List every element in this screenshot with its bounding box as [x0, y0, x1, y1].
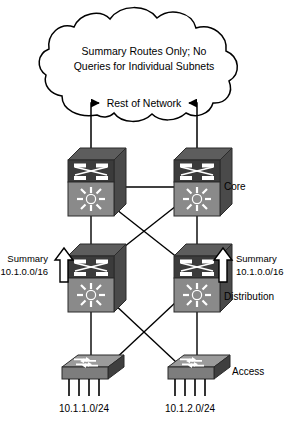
summary-right-line-2: 10.1.0.0/16	[236, 266, 284, 277]
subnet-right-label: 10.1.2.0/24	[165, 403, 215, 414]
rest-of-network-label: Rest of Network	[107, 97, 182, 109]
access-left-ports	[69, 379, 99, 396]
core-switch-left[interactable]	[68, 148, 126, 216]
summary-left-line-2: 10.1.0.0/16	[0, 266, 48, 277]
network-topology-diagram: Summary Routes Only; No Queries for Indi…	[0, 0, 288, 423]
core-tier-label: Core	[224, 181, 246, 192]
access-tier-label: Access	[232, 366, 264, 377]
cloud-line-1: Summary Routes Only; No	[82, 45, 207, 57]
distribution-switch-left[interactable]	[68, 244, 126, 312]
access-switch-right[interactable]	[168, 355, 230, 396]
cloud-line-2: Queries for Individual Subnets	[74, 60, 215, 72]
subnet-left-label: 10.1.1.0/24	[59, 403, 109, 414]
access-right-ports	[175, 379, 205, 396]
summary-left-line-1: Summary	[7, 253, 48, 264]
distribution-tier-label: Distribution	[224, 291, 274, 302]
summary-right-line-1: Summary	[236, 253, 277, 264]
diagram-canvas: Summary Routes Only; No Queries for Indi…	[0, 0, 288, 423]
access-switch-left[interactable]	[62, 355, 124, 396]
